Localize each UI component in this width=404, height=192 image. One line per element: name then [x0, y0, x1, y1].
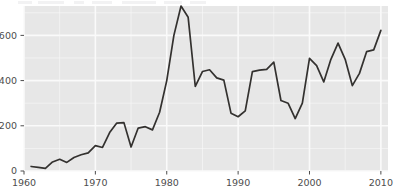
- y-tick-label: 400: [0, 75, 17, 86]
- y-tick-label: 600: [0, 30, 17, 41]
- line-chart-plot: 196019701980199020002010 0200400600: [0, 0, 404, 192]
- y-tick-label: 0: [11, 165, 17, 176]
- x-axis-tick-labels: 196019701980199020002010: [12, 177, 393, 188]
- x-tick-label: 1970: [83, 177, 107, 188]
- x-tick-label: 2010: [369, 177, 393, 188]
- x-tick-label: 2000: [297, 177, 321, 188]
- y-axis-tick-labels: 0200400600: [0, 30, 17, 177]
- plot-background: [24, 6, 388, 171]
- x-tick-label: 1960: [12, 177, 36, 188]
- x-tick-label: 1980: [155, 177, 179, 188]
- chart-figure: 196019701980199020002010 0200400600: [0, 0, 404, 192]
- y-tick-label: 200: [0, 120, 17, 131]
- top-edge-artifact: [18, 0, 208, 5]
- x-tick-label: 1990: [226, 177, 250, 188]
